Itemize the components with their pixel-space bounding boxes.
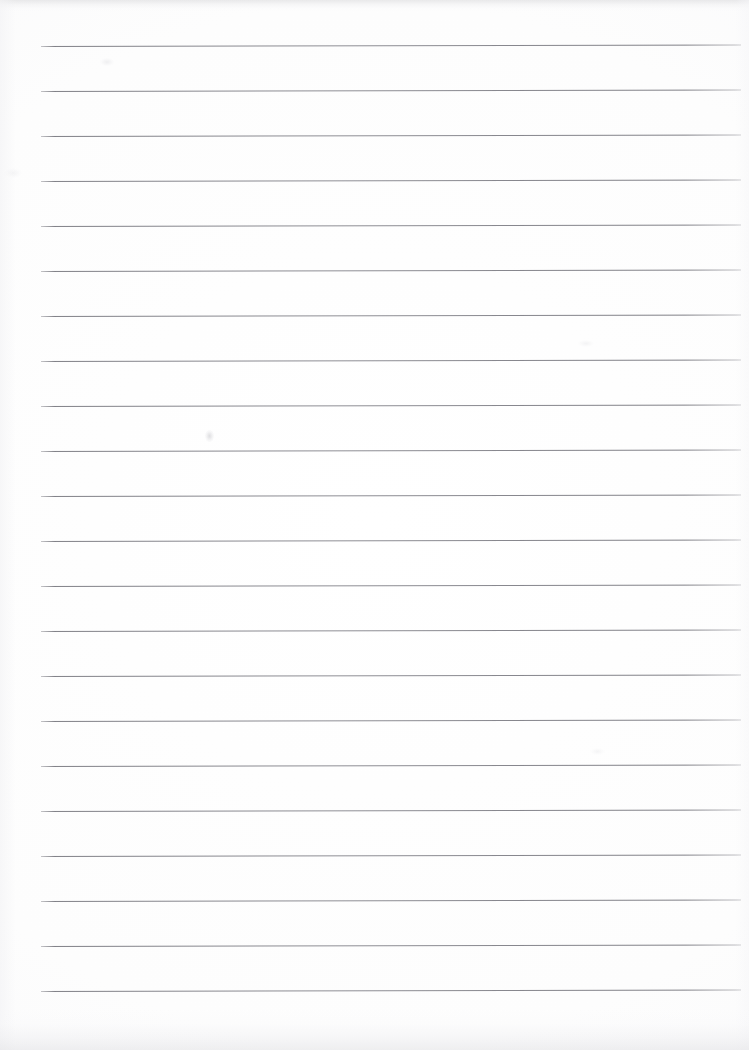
ruled-line: [41, 764, 741, 767]
ruled-line: [41, 989, 741, 992]
ruled-line: [41, 809, 741, 812]
ruled-line: [41, 44, 741, 47]
ruled-line: [41, 314, 741, 317]
ruled-line: [41, 134, 741, 137]
ruled-line: [41, 629, 741, 632]
ruled-line: [41, 899, 741, 902]
ruled-line: [41, 179, 741, 182]
ruled-line: [41, 539, 741, 542]
ruled-line: [41, 224, 741, 227]
ruled-line: [41, 584, 741, 587]
ruled-line: [41, 719, 741, 722]
scanned-page: [0, 0, 749, 1050]
ruled-line: [41, 359, 741, 362]
ruled-line: [41, 89, 741, 92]
ruled-line: [41, 854, 741, 857]
ruled-line: [41, 404, 741, 407]
ruled-line: [41, 449, 741, 452]
ruled-line: [41, 494, 741, 497]
ruled-line: [41, 674, 741, 677]
ruled-line: [41, 944, 741, 947]
ruled-lines-group: [0, 0, 749, 1050]
ruled-line: [41, 269, 741, 272]
